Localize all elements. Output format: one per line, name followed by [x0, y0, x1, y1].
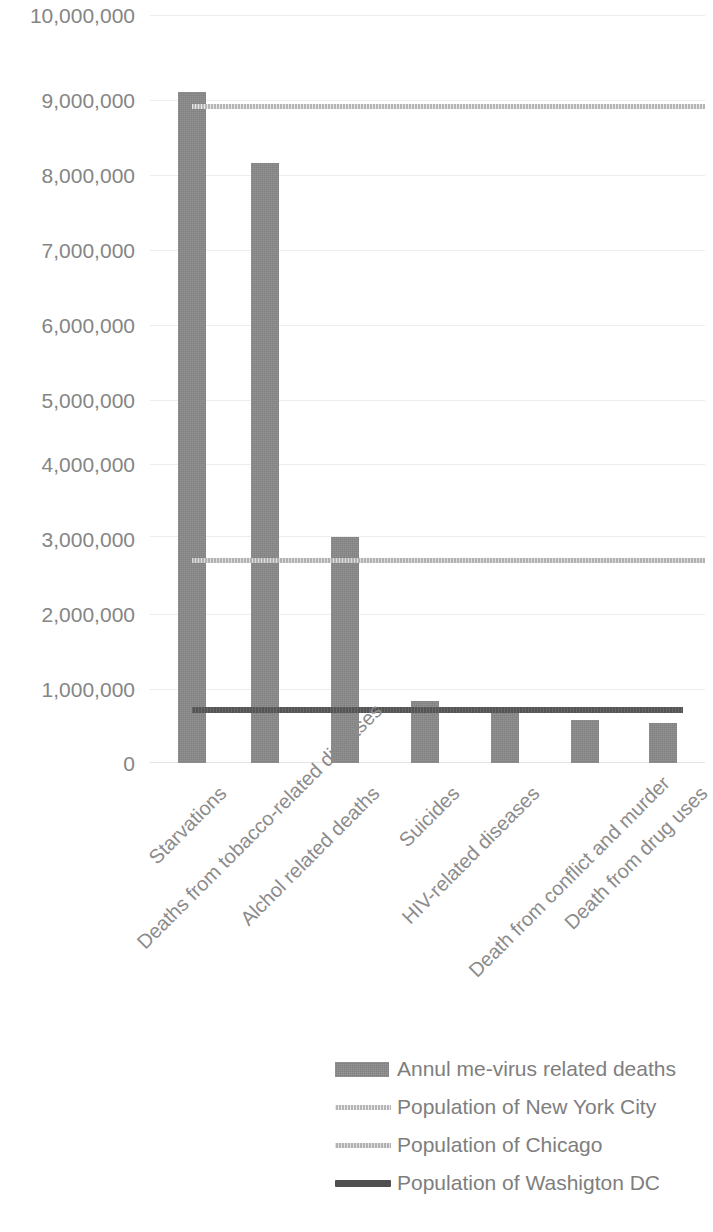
legend-item-label: Annul me-virus related deaths — [397, 1057, 676, 1081]
y-axis-tick-label: 8,000,000 — [0, 165, 135, 186]
legend-item-annual-deaths[interactable]: Annul me-virus related deaths — [335, 1050, 713, 1088]
y-axis-tick-label: 4,000,000 — [0, 454, 135, 475]
legend-item-chicago[interactable]: Population of Chicago — [335, 1126, 713, 1164]
gridline — [150, 400, 705, 401]
y-axis-tick-label: 0 — [0, 753, 135, 774]
legend-item-washigton-dc[interactable]: Population of Washigton DC — [335, 1164, 713, 1202]
chart-container: 10,000,000 9,000,000 8,000,000 7,000,000… — [0, 0, 713, 1232]
legend-item-label: Population of Washigton DC — [397, 1171, 660, 1195]
y-axis-tick-label: 2,000,000 — [0, 604, 135, 625]
legend-item-label: Population of Chicago — [397, 1133, 602, 1157]
x-axis-label-suicides: Suicides — [292, 782, 463, 953]
bar-hiv-related-diseases[interactable] — [491, 713, 519, 763]
x-axis-label-alchol-related-deaths: Alchol related deaths — [212, 782, 383, 953]
plot-area — [150, 15, 705, 763]
legend-item-new-york-city[interactable]: Population of New York City — [335, 1088, 713, 1126]
bar-swatch-icon — [335, 1062, 397, 1077]
reference-line-new-york-city[interactable] — [192, 104, 705, 109]
reference-line-chicago[interactable] — [192, 558, 705, 563]
bar-starvations[interactable] — [178, 92, 206, 763]
chart-legend: Annul me-virus related deaths Population… — [335, 1050, 713, 1202]
y-axis-tick-label: 6,000,000 — [0, 315, 135, 336]
gridline — [150, 614, 705, 615]
x-axis-label-death-from-conflict-and-murder: Death from conflict and murder — [464, 782, 663, 981]
gridline — [150, 536, 705, 537]
line-swatch-icon — [335, 1180, 397, 1187]
line-swatch-icon — [335, 1105, 397, 1110]
y-axis-tick-label: 5,000,000 — [0, 390, 135, 411]
gridline — [150, 15, 705, 16]
y-axis-tick-label: 3,000,000 — [0, 529, 135, 550]
y-axis-tick-label: 1,000,000 — [0, 679, 135, 700]
bar-death-from-drug-uses[interactable] — [649, 723, 677, 763]
reference-line-washigton-dc[interactable] — [192, 707, 683, 713]
gridline — [150, 464, 705, 465]
gridline — [150, 100, 705, 101]
gridline — [150, 250, 705, 251]
bar-tobacco-related-diseases[interactable] — [251, 163, 279, 763]
line-swatch-icon — [335, 1143, 397, 1148]
y-axis-tick-label: 7,000,000 — [0, 240, 135, 261]
legend-item-label: Population of New York City — [397, 1095, 656, 1119]
bar-death-from-conflict-and-murder[interactable] — [571, 720, 599, 763]
y-axis-tick-label: 10,000,000 — [0, 5, 135, 26]
gridline — [150, 325, 705, 326]
y-axis-tick-label: 9,000,000 — [0, 90, 135, 111]
gridline — [150, 689, 705, 690]
gridline — [150, 175, 705, 176]
